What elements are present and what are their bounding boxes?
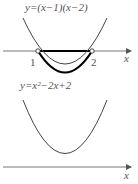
x-axis-1-label: x	[124, 52, 129, 64]
diagram-canvas	[0, 0, 138, 184]
root-2-point	[90, 49, 94, 53]
equation-1-label: y=(x−1)(x−2)	[25, 1, 88, 13]
x-axis-2-label: x	[124, 169, 129, 181]
equation-2-label: y=x²−2x+2	[20, 79, 71, 91]
root-1-point	[36, 49, 40, 53]
parabola-2	[23, 100, 107, 154]
root-1-label: 1	[30, 56, 36, 68]
root-2-label: 2	[91, 56, 97, 68]
